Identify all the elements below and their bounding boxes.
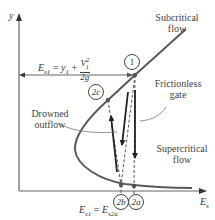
- point-2c-label: 2c: [88, 84, 104, 100]
- drowned-outflow-label: Drownedoutflow: [24, 108, 76, 130]
- frictionless-gate-label: Frictionlessgate: [146, 78, 210, 100]
- point-1-label: 1: [124, 54, 140, 70]
- supercritical-flow-label: Supercriticalflow: [150, 143, 214, 165]
- equation-energy-equal: Es1 = Es2a: [79, 204, 118, 218]
- point-2b-label: 2b: [113, 194, 129, 210]
- y-axis: [16, 13, 22, 191]
- point-2a-label: 2a: [128, 194, 144, 210]
- subcritical-flow-label: Subcriticalflow: [144, 12, 210, 34]
- x-axis-label: Es: [200, 196, 209, 210]
- frictionless-gate-leader: [140, 107, 166, 121]
- velocity-head-fraction: V21 2g: [80, 56, 91, 82]
- equation-energy-at-1: Es1 = y1 + V21 2g: [38, 56, 90, 82]
- y-axis-label: y: [9, 10, 13, 21]
- dashed-guides: [108, 75, 135, 198]
- x-axis: [19, 188, 207, 194]
